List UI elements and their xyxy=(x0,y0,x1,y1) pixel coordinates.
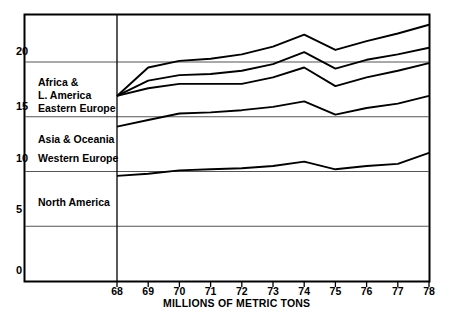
chart-root: 20 15 10 5 0 Africa & L. America Eastern… xyxy=(0,0,451,316)
series-line-western-europe xyxy=(117,96,429,127)
series-label-africa: Africa & xyxy=(38,76,78,88)
x-axis-title: MILLIONS OF METRIC TONS xyxy=(163,297,310,309)
x-tick-label-73: 73 xyxy=(261,285,285,297)
y-tick-10: 10 xyxy=(16,152,28,164)
plot-frame xyxy=(25,15,430,282)
y-tick-15: 15 xyxy=(16,100,28,112)
series-lines xyxy=(117,25,429,176)
y-tick-0: 0 xyxy=(16,264,22,276)
x-tick-label-69: 69 xyxy=(136,285,160,297)
series-label-eastern-europe: Eastern Europe xyxy=(38,102,116,114)
series-line-eastern-europe xyxy=(117,48,429,96)
x-tick-label-78: 78 xyxy=(417,285,441,297)
series-label-asia-oceania: Asia & Oceania xyxy=(38,133,114,145)
series-label-western-europe: Western Europe xyxy=(38,152,118,164)
x-tick-label-72: 72 xyxy=(230,285,254,297)
series-line-north-america xyxy=(117,153,429,176)
x-tick-label-71: 71 xyxy=(199,285,223,297)
y-tick-20: 20 xyxy=(16,45,28,57)
x-tick-label-68: 68 xyxy=(105,285,129,297)
x-tick-label-75: 75 xyxy=(323,285,347,297)
x-tick-label-76: 76 xyxy=(355,285,379,297)
x-tick-label-77: 77 xyxy=(386,285,410,297)
x-tick-label-70: 70 xyxy=(167,285,191,297)
x-tick-label-74: 74 xyxy=(292,285,316,297)
y-tick-5: 5 xyxy=(16,203,22,215)
series-label-latin-america: L. America xyxy=(38,89,91,101)
series-label-north-america: North America xyxy=(38,196,110,208)
series-line-asia-oceania xyxy=(117,63,429,96)
